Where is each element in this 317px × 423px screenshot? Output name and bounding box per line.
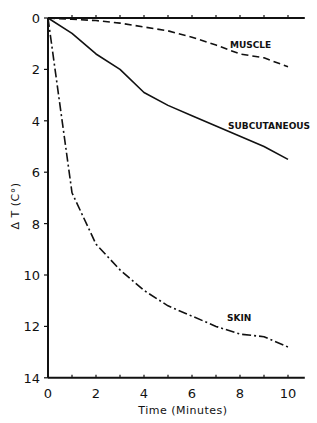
y-tick-label: 8 bbox=[32, 217, 40, 232]
series-label-muscle: MUSCLE bbox=[230, 40, 271, 50]
x-tick-label: 2 bbox=[92, 386, 100, 401]
line-chart: 024681002468101214 MUSCLE SUBCUTANEOUS S… bbox=[0, 0, 317, 423]
x-tick-label: 10 bbox=[280, 386, 297, 401]
y-tick-label: 6 bbox=[32, 165, 40, 180]
y-tick-label: 2 bbox=[32, 62, 40, 77]
x-tick-label: 6 bbox=[188, 386, 196, 401]
chart-series bbox=[48, 18, 288, 347]
y-axis-title: Δ T (C°) bbox=[9, 182, 22, 229]
x-tick-label: 0 bbox=[44, 386, 52, 401]
y-tick-label: 14 bbox=[23, 371, 40, 386]
y-tick-label: 12 bbox=[23, 319, 40, 334]
y-tick-label: 10 bbox=[23, 268, 40, 283]
series-label-subcutaneous: SUBCUTANEOUS bbox=[228, 121, 310, 131]
chart-axes: 024681002468101214 bbox=[23, 11, 304, 401]
y-tick-label: 0 bbox=[32, 11, 40, 26]
series-label-skin: SKIN bbox=[227, 313, 251, 323]
x-tick-label: 4 bbox=[140, 386, 148, 401]
y-tick-label: 4 bbox=[32, 114, 40, 129]
x-axis-title: Time (Minutes) bbox=[137, 404, 227, 417]
series-line-skin bbox=[48, 18, 288, 347]
x-tick-label: 8 bbox=[236, 386, 244, 401]
